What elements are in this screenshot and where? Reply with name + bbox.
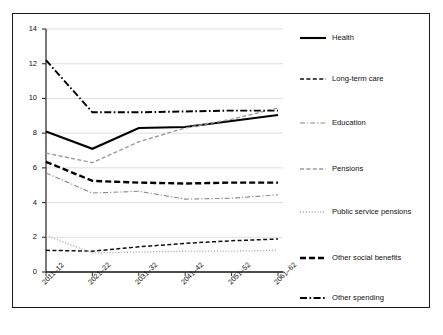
series-line-long-term-care bbox=[46, 239, 278, 251]
legend-line-swatch bbox=[300, 207, 326, 217]
y-axis-tick-label: 2 bbox=[21, 232, 37, 241]
legend-item-label: Public service pensions bbox=[332, 207, 411, 217]
legend-item-public-service-pensions[interactable]: Public service pensions bbox=[300, 206, 411, 218]
legend-line-swatch bbox=[300, 164, 326, 174]
series-line-other-social-benefits bbox=[46, 162, 278, 184]
legend-item-label: Long-term care bbox=[332, 74, 384, 84]
series-line-other-spending bbox=[46, 60, 278, 112]
legend-item-label: Health bbox=[332, 33, 354, 43]
y-axis-tick-label: 8 bbox=[21, 128, 37, 137]
legend-line-swatch bbox=[300, 293, 326, 303]
legend-line-swatch bbox=[300, 253, 326, 263]
y-axis-tick-label: 14 bbox=[21, 24, 37, 33]
series-line-pensions bbox=[46, 108, 278, 163]
y-axis-tick-label: 4 bbox=[21, 198, 37, 207]
legend-item-other-social-benefits[interactable]: Other social benefits bbox=[300, 252, 401, 264]
legend-item-label: Other social benefits bbox=[332, 253, 401, 263]
legend-line-swatch bbox=[300, 74, 326, 84]
legend-item-label: Pensions bbox=[332, 164, 363, 174]
legend-item-label: Other spending bbox=[332, 293, 384, 303]
series-line-health bbox=[46, 115, 278, 149]
legend-item-label: Education bbox=[332, 118, 366, 128]
legend-item-other-spending[interactable]: Other spending bbox=[300, 292, 384, 304]
legend-item-health[interactable]: Health bbox=[300, 32, 354, 44]
chart-page: 02468101214 2011–122021–222031–322041–42… bbox=[0, 0, 443, 335]
data-series-group bbox=[46, 60, 278, 253]
legend-item-long-term-care[interactable]: Long-term care bbox=[300, 73, 384, 85]
gridlines bbox=[46, 29, 283, 237]
legend-line-swatch bbox=[300, 118, 326, 128]
legend-item-education[interactable]: Education bbox=[300, 117, 366, 129]
y-axis-tick-label: 6 bbox=[21, 163, 37, 172]
line-chart-plot bbox=[0, 0, 443, 335]
axis-lines bbox=[46, 29, 283, 272]
y-axis-tick-label: 0 bbox=[21, 267, 37, 276]
y-axis-tick-label: 12 bbox=[21, 59, 37, 68]
legend-item-pensions[interactable]: Pensions bbox=[300, 163, 363, 175]
legend-line-swatch bbox=[300, 33, 326, 43]
y-axis-tick-label: 10 bbox=[21, 93, 37, 102]
